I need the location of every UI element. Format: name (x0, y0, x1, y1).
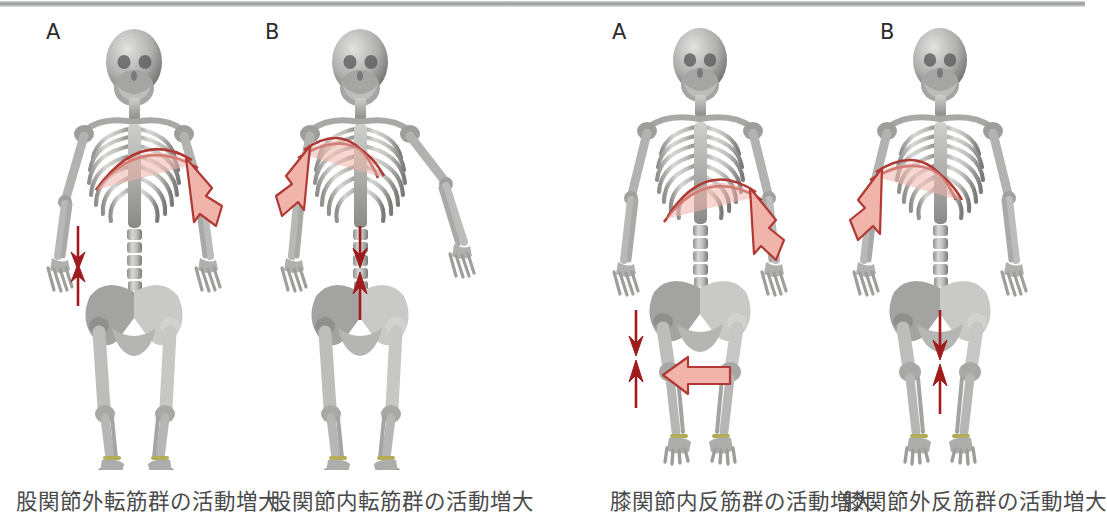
top-divider-rule (0, 1, 1085, 7)
panel-letter-1: A (46, 22, 61, 43)
ankle-band (329, 456, 347, 460)
panel-1: A (0, 10, 268, 470)
panel-caption-4: 膝関節外反筋群の活動増大 (843, 491, 1107, 513)
panel-caption-3: 膝関節内反筋群の活動増大 (610, 491, 874, 513)
ankle-band (712, 434, 730, 438)
skeleton-illustration-3 (560, 10, 832, 470)
ankle-band (377, 456, 395, 460)
panel-caption-1: 股関節外転筋群の活動増大 (16, 491, 280, 513)
thin-converging-arrows-3 (629, 310, 643, 408)
panel-letter-4: B (880, 22, 895, 43)
skeleton-illustration-2 (268, 10, 538, 470)
skeleton-illustration-4 (832, 10, 1085, 470)
ankle-band (952, 434, 970, 438)
panel-2: B (268, 10, 538, 470)
thin-converging-arrows-4 (933, 310, 947, 414)
thin-converging-arrows-1 (71, 226, 85, 306)
ankle-band (103, 456, 121, 460)
panel-letter-2: B (265, 22, 280, 43)
panel-caption-2: 股関節内転筋群の活動増大 (270, 491, 534, 513)
panel-letter-3: A (612, 22, 627, 43)
ankle-band (910, 434, 928, 438)
ankle-band (670, 434, 688, 438)
panel-3: A (560, 10, 832, 470)
panel-4: B (832, 10, 1085, 470)
ankle-band (151, 456, 169, 460)
skeleton-illustration-1 (0, 10, 268, 470)
